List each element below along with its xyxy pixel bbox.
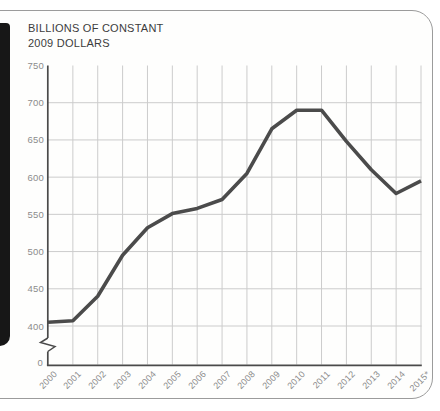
data-line-spending-billions-constant-2009-dollars bbox=[48, 110, 421, 322]
y-tick-label-700: 700 bbox=[20, 97, 44, 108]
line-chart-plot-area bbox=[0, 0, 440, 411]
page: BILLIONS OF CONSTANT 2009 DOLLARS 750700… bbox=[0, 0, 440, 411]
y-tick-label-750: 750 bbox=[20, 60, 44, 71]
y-tick-label-650: 650 bbox=[20, 134, 44, 145]
y-tick-label-550: 550 bbox=[20, 209, 44, 220]
y-tick-label-450: 450 bbox=[20, 283, 44, 294]
y-tick-label-600: 600 bbox=[20, 172, 44, 183]
y-tick-label-500: 500 bbox=[20, 246, 44, 257]
y-tick-label-400: 400 bbox=[20, 321, 44, 332]
axis-break-icon bbox=[41, 338, 56, 352]
y-tick-label-0: 0 bbox=[19, 357, 43, 368]
